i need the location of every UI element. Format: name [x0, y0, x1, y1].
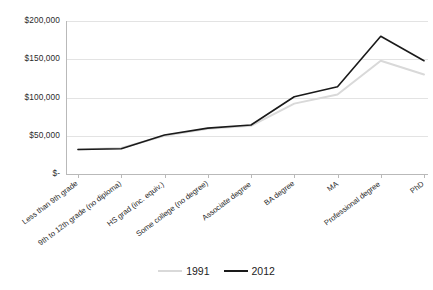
y-tick-label: $150,000	[25, 54, 60, 62]
x-tick-label: 9th to 12th grade (no diploma)	[37, 180, 123, 247]
legend-swatch-icon	[224, 270, 248, 272]
series-svg	[66, 21, 428, 174]
plot-area	[66, 21, 428, 174]
series-line-1991	[78, 61, 424, 150]
legend-label: 1991	[186, 266, 209, 277]
y-tick-label: $200,000	[25, 16, 60, 24]
line-chart: $200,000 $150,000 $100,000 $50,000 $- Le…	[0, 0, 433, 290]
x-tick-label: MA	[326, 180, 340, 193]
series-layer	[66, 21, 428, 174]
legend-item[interactable]: 2012	[224, 266, 275, 277]
x-axis-labels: Less than 9th grade9th to 12th grade (no…	[0, 174, 433, 264]
series-line-2012	[78, 36, 424, 149]
chart-legend: 19912012	[0, 266, 433, 277]
legend-swatch-icon	[158, 270, 182, 272]
x-tick-label: PhD	[409, 180, 425, 195]
y-tick-label: $50,000	[29, 131, 60, 139]
y-tick-label: $100,000	[25, 93, 60, 101]
legend-item[interactable]: 1991	[158, 266, 209, 277]
legend-label: 2012	[252, 266, 275, 277]
x-tick-label: BA degree	[263, 180, 296, 207]
